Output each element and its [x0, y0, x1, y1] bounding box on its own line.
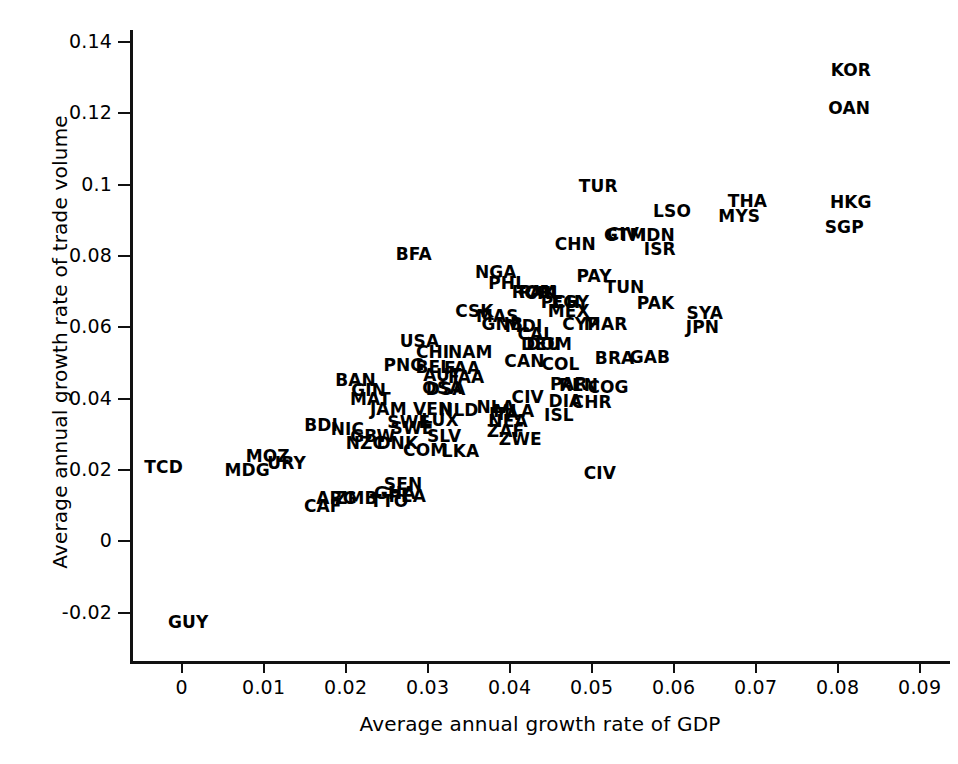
- data-point-label: GUY: [168, 613, 208, 630]
- y-tick-mark: [118, 612, 130, 614]
- x-tick-label: 0.04: [465, 678, 555, 697]
- x-tick-label: 0.09: [875, 678, 958, 697]
- data-point-label: BRA: [595, 350, 635, 367]
- y-tick-mark: [118, 41, 130, 43]
- data-point-label: ISL: [544, 406, 574, 423]
- data-point-label: LKA: [442, 442, 479, 459]
- data-point-label: GAB: [630, 348, 670, 365]
- data-point-label: SGP: [825, 219, 864, 236]
- data-point-label: DSA: [426, 381, 466, 398]
- x-axis-title: Average annual growth rate of GDP: [130, 712, 950, 736]
- data-point-label: CAF: [304, 497, 342, 514]
- data-point-label: CAN: [504, 353, 544, 370]
- plot-area: KOROANTURTHAHKGLSOMYSSGPCIVGTMIDNCHNISRB…: [130, 30, 950, 661]
- x-tick-mark: [345, 661, 347, 673]
- data-point-label: TCD: [144, 458, 182, 475]
- x-tick-label: 0.07: [711, 678, 801, 697]
- y-tick-mark: [118, 469, 130, 471]
- data-point-label: ZWE: [499, 431, 542, 448]
- data-point-label: CIV: [584, 464, 616, 481]
- x-tick-mark: [591, 661, 593, 673]
- data-point-label: OAN: [828, 99, 870, 116]
- x-tick-label: 0.06: [629, 678, 719, 697]
- data-point-label: COL: [541, 356, 579, 373]
- x-tick-mark: [263, 661, 265, 673]
- x-tick-mark: [509, 661, 511, 673]
- x-tick-label: 0.03: [383, 678, 473, 697]
- x-tick-mark: [673, 661, 675, 673]
- data-point-label: BFA: [396, 245, 432, 262]
- data-point-label: LSO: [653, 203, 691, 220]
- x-tick-label: 0.08: [793, 678, 883, 697]
- y-tick-mark: [118, 540, 130, 542]
- x-axis-line: [130, 661, 950, 664]
- x-tick-label: 0.01: [219, 678, 309, 697]
- data-point-label: ISR: [644, 240, 676, 257]
- y-tick-mark: [118, 255, 130, 257]
- y-tick-mark: [118, 398, 130, 400]
- y-tick-mark: [118, 326, 130, 328]
- y-tick-mark: [118, 112, 130, 114]
- x-tick-label: 0.05: [547, 678, 637, 697]
- data-point-label: KOR: [831, 62, 871, 79]
- data-point-label: COM: [403, 442, 447, 459]
- data-point-label: CHN: [555, 236, 596, 253]
- x-tick-mark: [755, 661, 757, 673]
- data-point-label: MYS: [718, 207, 760, 224]
- x-tick-mark: [181, 661, 183, 673]
- data-point-label: HKG: [830, 194, 872, 211]
- x-tick-label: 0: [137, 678, 227, 697]
- x-tick-mark: [919, 661, 921, 673]
- y-tick-mark: [118, 184, 130, 186]
- data-point-label: CHR: [572, 393, 612, 410]
- data-point-label: PAK: [637, 295, 675, 312]
- x-tick-mark: [427, 661, 429, 673]
- data-point-label: MAR: [584, 316, 627, 333]
- y-axis-title: Average annual growth rate of trade volu…: [48, 22, 72, 662]
- scatter-plot-figure: 0.140.120.10.080.060.040.020-0.02 00.010…: [0, 0, 958, 764]
- data-point-label: URY: [267, 454, 306, 471]
- data-point-label: TUR: [579, 177, 618, 194]
- data-point-label: MDG: [225, 462, 270, 479]
- data-point-label: TTO: [370, 492, 408, 509]
- data-point-label: JPN: [686, 319, 719, 336]
- data-point-label: BDI: [304, 417, 338, 434]
- x-tick-label: 0.02: [301, 678, 391, 697]
- x-tick-mark: [837, 661, 839, 673]
